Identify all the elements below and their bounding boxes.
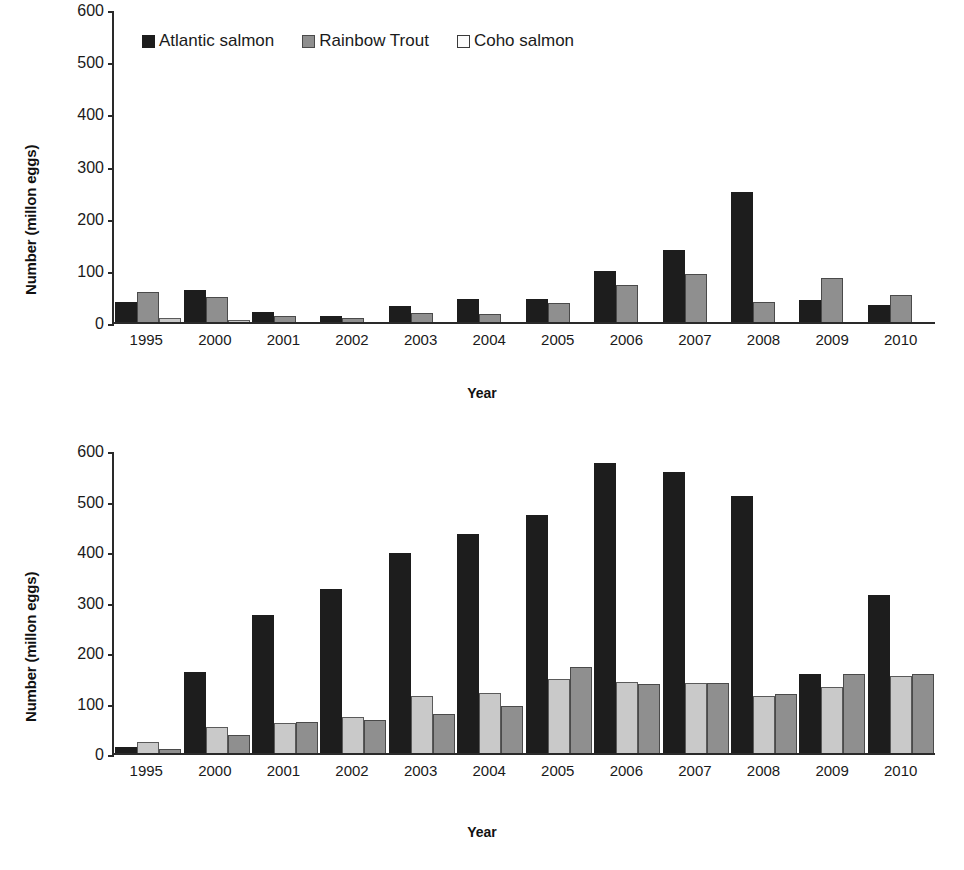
- bar[interactable]: [685, 274, 707, 323]
- bar[interactable]: [890, 676, 912, 753]
- y-axis-tick: [108, 503, 114, 505]
- bar[interactable]: [912, 674, 934, 753]
- x-axis-tick-label: 2007: [661, 762, 730, 779]
- bar[interactable]: [228, 320, 250, 322]
- bar[interactable]: [479, 693, 501, 753]
- x-axis-tick-label: 2003: [386, 762, 455, 779]
- bar[interactable]: [821, 687, 843, 753]
- bar[interactable]: [890, 295, 912, 322]
- bar-group: [319, 11, 387, 322]
- bar-group: [593, 11, 661, 322]
- bar-group: [661, 11, 729, 322]
- bar[interactable]: [753, 696, 775, 753]
- bar[interactable]: [594, 463, 616, 753]
- bar[interactable]: [663, 472, 685, 753]
- bar[interactable]: [433, 714, 455, 753]
- bar[interactable]: [616, 682, 638, 753]
- bar[interactable]: [184, 672, 206, 753]
- y-axis-tick-label: 100: [77, 263, 104, 281]
- x-axis-ticks-top: 1995200020012002200320042005200620072008…: [112, 331, 935, 348]
- bar[interactable]: [548, 303, 570, 322]
- x-axis-tick-label: 2003: [386, 331, 455, 348]
- bar[interactable]: [137, 292, 159, 322]
- x-axis-tick-label: 1995: [112, 762, 181, 779]
- bar[interactable]: [821, 278, 843, 322]
- bar[interactable]: [296, 722, 318, 753]
- bar[interactable]: [616, 285, 638, 322]
- bar[interactable]: [252, 312, 274, 322]
- y-axis-tick-label: 400: [77, 544, 104, 562]
- bar[interactable]: [115, 747, 137, 753]
- bar[interactable]: [775, 694, 797, 753]
- x-axis-tick-label: 2002: [318, 331, 387, 348]
- y-axis-tick-label: 400: [77, 106, 104, 124]
- y-axis-tick: [108, 11, 114, 13]
- bar-group: [730, 11, 798, 322]
- bar[interactable]: [159, 318, 181, 322]
- bar[interactable]: [457, 534, 479, 753]
- y-axis-tick: [108, 755, 114, 757]
- y-axis-tick-label: 100: [77, 696, 104, 714]
- bar[interactable]: [389, 306, 411, 322]
- x-axis-tick-label: 2001: [249, 762, 318, 779]
- bar[interactable]: [206, 297, 228, 322]
- bar[interactable]: [868, 595, 890, 753]
- y-axis-tick-label: 0: [95, 315, 104, 333]
- bar[interactable]: [663, 250, 685, 323]
- bar[interactable]: [320, 589, 342, 753]
- bar[interactable]: [389, 553, 411, 753]
- bar[interactable]: [411, 696, 433, 753]
- y-axis-tick: [108, 324, 114, 326]
- bar[interactable]: [274, 316, 296, 322]
- bar[interactable]: [274, 723, 296, 753]
- bar[interactable]: [526, 515, 548, 753]
- bar[interactable]: [206, 727, 228, 753]
- bar[interactable]: [137, 742, 159, 753]
- bar[interactable]: [184, 290, 206, 322]
- bar[interactable]: [228, 735, 250, 753]
- bar[interactable]: [799, 300, 821, 322]
- bar-group: [798, 452, 866, 753]
- bar[interactable]: [843, 674, 865, 753]
- bar[interactable]: [159, 749, 181, 753]
- y-axis-tick: [108, 63, 114, 65]
- y-axis-tick-label: 600: [77, 2, 104, 20]
- x-axis-tick-label: 2008: [729, 331, 798, 348]
- bar[interactable]: [252, 615, 274, 753]
- bar[interactable]: [685, 683, 707, 753]
- bar-group: [114, 452, 182, 753]
- bar[interactable]: [753, 302, 775, 322]
- bar[interactable]: [320, 316, 342, 322]
- bar[interactable]: [411, 313, 433, 322]
- y-axis-tick-label: 0: [95, 746, 104, 764]
- bar[interactable]: [342, 717, 364, 753]
- bar[interactable]: [342, 318, 364, 322]
- bar[interactable]: [479, 314, 501, 322]
- bar[interactable]: [731, 192, 753, 322]
- y-axis-tick: [108, 604, 114, 606]
- bar-group: [251, 11, 319, 322]
- x-axis-tick-label: 2000: [181, 762, 250, 779]
- bar-group: [319, 452, 387, 753]
- x-axis-tick-label: 2002: [318, 762, 387, 779]
- chart-panel-bottom: Number (millon eggs) 0100200300400500600…: [0, 432, 964, 870]
- bar[interactable]: [731, 496, 753, 753]
- bar[interactable]: [868, 305, 890, 322]
- bar[interactable]: [594, 271, 616, 322]
- bar[interactable]: [707, 683, 729, 753]
- x-axis-tick-label: 2007: [661, 331, 730, 348]
- bar[interactable]: [364, 720, 386, 753]
- bar[interactable]: [570, 667, 592, 753]
- bar[interactable]: [548, 679, 570, 753]
- y-axis-tick: [108, 115, 114, 117]
- bar[interactable]: [501, 706, 523, 753]
- bar[interactable]: [526, 299, 548, 322]
- x-axis-tick-label: 1995: [112, 331, 181, 348]
- bar[interactable]: [799, 674, 821, 753]
- y-axis-tick-label: 300: [77, 159, 104, 177]
- bar[interactable]: [115, 302, 137, 322]
- y-axis-tick: [108, 705, 114, 707]
- bar[interactable]: [638, 684, 660, 753]
- bar[interactable]: [457, 299, 479, 322]
- x-axis-tick-label: 2004: [455, 331, 524, 348]
